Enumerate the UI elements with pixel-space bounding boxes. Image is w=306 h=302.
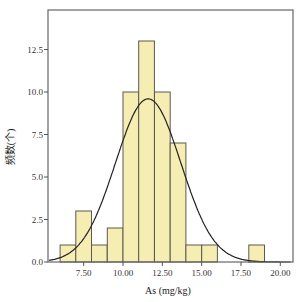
y-tick-label: 10.0 — [27, 87, 43, 97]
x-axis: 7.5010.0012.5015.0017.5020.00 — [76, 262, 291, 278]
histogram-bar — [249, 245, 265, 262]
x-tick-label: 20.00 — [270, 268, 291, 278]
histogram-bar — [123, 92, 139, 262]
y-tick-label: 5.0 — [32, 172, 44, 182]
histogram-chart: 0.02.55.07.510.012.5 7.5010.0012.5015.00… — [0, 0, 306, 302]
histogram-bar — [139, 41, 155, 262]
histogram-bar — [92, 245, 108, 262]
x-tick-label: 10.00 — [113, 268, 134, 278]
y-tick-label: 0.0 — [32, 257, 44, 267]
y-axis-title: 频数(个) — [4, 129, 17, 166]
x-tick-label: 12.50 — [152, 268, 173, 278]
histogram-bar — [76, 211, 92, 262]
x-tick-label: 17.50 — [231, 268, 252, 278]
x-tick-label: 15.00 — [192, 268, 213, 278]
y-axis: 0.02.55.07.510.012.5 — [27, 45, 48, 268]
histogram-bar — [170, 143, 186, 262]
y-tick-label: 7.5 — [32, 130, 44, 140]
x-tick-label: 7.50 — [76, 268, 92, 278]
y-tick-label: 2.5 — [32, 215, 44, 225]
histogram-bar — [107, 228, 123, 262]
y-tick-label: 12.5 — [27, 45, 43, 55]
histogram-bar — [155, 92, 171, 262]
histogram-bar — [186, 245, 202, 262]
x-axis-title: As (mg/kg) — [145, 285, 191, 297]
histogram-bar — [202, 245, 218, 262]
